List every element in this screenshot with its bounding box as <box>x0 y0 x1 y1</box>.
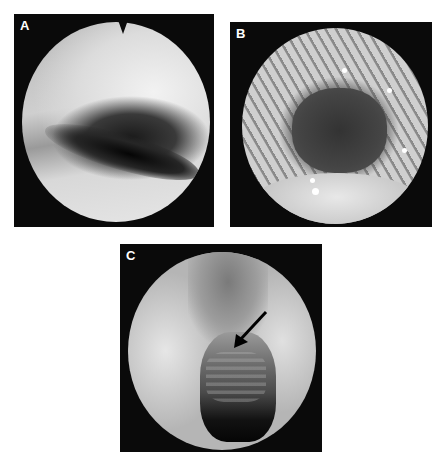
highlight-dot <box>312 188 319 195</box>
highlight-dot <box>342 68 347 73</box>
arrow-icon <box>230 310 270 350</box>
panel-c: C <box>120 244 322 452</box>
dark-lumen <box>292 88 387 173</box>
panel-b: B <box>230 22 432 227</box>
panel-a: A <box>14 14 214 227</box>
panel-label-c: C <box>126 248 135 263</box>
endoscopic-image-c <box>128 252 316 450</box>
endoscopic-image-a <box>22 22 210 222</box>
ringed-structure <box>206 352 266 402</box>
panel-label-b: B <box>236 26 245 41</box>
mucosal-groove <box>40 113 204 192</box>
endoscopic-image-b <box>242 28 428 224</box>
image-notch <box>118 20 128 34</box>
highlight-dot <box>310 178 315 183</box>
panel-label-a: A <box>20 18 29 33</box>
highlight-dot <box>402 148 407 153</box>
lower-wall <box>252 173 422 224</box>
highlight-dot <box>387 88 392 93</box>
